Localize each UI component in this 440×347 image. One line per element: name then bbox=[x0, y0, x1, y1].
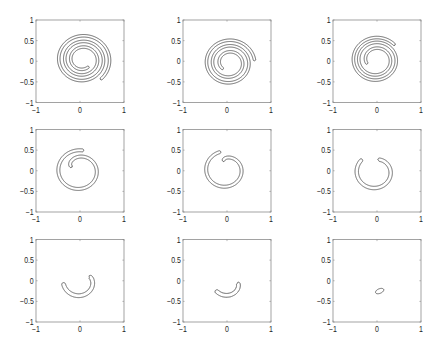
x-tick-label: −1 bbox=[32, 215, 40, 224]
y-tick-label: 0 bbox=[177, 276, 181, 285]
y-tick-label: 1 bbox=[177, 235, 181, 244]
y-tick-label: 0.5 bbox=[321, 256, 331, 265]
x-tick-label: 0 bbox=[375, 215, 379, 224]
x-tick-label: 0 bbox=[225, 215, 229, 224]
y-tick-label: 0.5 bbox=[171, 36, 181, 45]
x-tick-label: 1 bbox=[269, 106, 273, 115]
x-tick-label: 0 bbox=[78, 325, 82, 334]
figure: 10.50−0.5−1−10110.50−0.5−1−10110.50−0.5−… bbox=[0, 0, 440, 347]
y-tick-label: 1 bbox=[327, 125, 331, 134]
axes-box bbox=[183, 20, 271, 103]
y-tick-label: 0 bbox=[30, 276, 34, 285]
axes-box bbox=[333, 240, 421, 323]
y-tick-label: 1 bbox=[30, 235, 34, 244]
y-tick-label: 1 bbox=[177, 125, 181, 134]
x-tick-label: 1 bbox=[419, 325, 423, 334]
x-tick-label: −1 bbox=[179, 106, 187, 115]
subplot-1 bbox=[36, 20, 124, 103]
y-tick-label: −0.5 bbox=[317, 297, 331, 306]
axes-box bbox=[183, 130, 271, 213]
axes-box bbox=[183, 240, 271, 323]
y-tick-label: 0 bbox=[177, 166, 181, 175]
y-tick-label: 0 bbox=[327, 166, 331, 175]
y-tick-label: 0.5 bbox=[321, 146, 331, 155]
y-tick-label: 1 bbox=[327, 235, 331, 244]
y-tick-label: 0.5 bbox=[24, 36, 34, 45]
x-tick-label: −1 bbox=[32, 325, 40, 334]
subplot-4 bbox=[36, 130, 124, 213]
y-tick-label: 1 bbox=[177, 16, 181, 25]
y-tick-label: 0.5 bbox=[321, 36, 331, 45]
y-tick-label: 0 bbox=[327, 57, 331, 66]
subplot-5 bbox=[183, 130, 271, 213]
y-tick-label: −0.5 bbox=[167, 297, 181, 306]
plot-canvas bbox=[0, 0, 440, 347]
axes-box bbox=[333, 20, 421, 103]
x-tick-label: 1 bbox=[419, 215, 423, 224]
x-tick-label: −1 bbox=[179, 215, 187, 224]
y-tick-label: −0.5 bbox=[20, 77, 34, 86]
x-tick-label: −1 bbox=[329, 325, 337, 334]
y-tick-label: −0.5 bbox=[317, 77, 331, 86]
y-tick-label: −0.5 bbox=[167, 77, 181, 86]
y-tick-label: 0.5 bbox=[24, 256, 34, 265]
x-tick-label: 0 bbox=[78, 106, 82, 115]
y-tick-label: 0.5 bbox=[24, 146, 34, 155]
y-tick-label: 0 bbox=[177, 57, 181, 66]
y-tick-label: 0.5 bbox=[171, 256, 181, 265]
y-tick-label: −0.5 bbox=[317, 187, 331, 196]
x-tick-label: −1 bbox=[179, 325, 187, 334]
x-tick-label: 1 bbox=[419, 106, 423, 115]
subplot-6 bbox=[333, 130, 421, 213]
x-tick-label: 0 bbox=[375, 106, 379, 115]
subplot-2 bbox=[183, 20, 271, 103]
subplot-3 bbox=[333, 20, 421, 103]
y-tick-label: 1 bbox=[30, 125, 34, 134]
y-tick-label: 0 bbox=[30, 57, 34, 66]
x-tick-label: 1 bbox=[269, 325, 273, 334]
y-tick-label: 0 bbox=[327, 276, 331, 285]
x-tick-label: −1 bbox=[32, 106, 40, 115]
x-tick-label: 1 bbox=[269, 215, 273, 224]
x-tick-label: 0 bbox=[78, 215, 82, 224]
y-tick-label: −0.5 bbox=[20, 187, 34, 196]
axes-box bbox=[36, 130, 124, 213]
x-tick-label: 1 bbox=[122, 215, 126, 224]
x-tick-label: −1 bbox=[329, 215, 337, 224]
y-tick-label: 1 bbox=[327, 16, 331, 25]
y-tick-label: 1 bbox=[30, 16, 34, 25]
axes-box bbox=[333, 130, 421, 213]
x-tick-label: 0 bbox=[225, 106, 229, 115]
x-tick-label: −1 bbox=[329, 106, 337, 115]
y-tick-label: 0.5 bbox=[171, 146, 181, 155]
axes-box bbox=[36, 240, 124, 323]
subplot-9 bbox=[333, 240, 421, 323]
y-tick-label: 0 bbox=[30, 166, 34, 175]
y-tick-label: −0.5 bbox=[167, 187, 181, 196]
x-tick-label: 1 bbox=[122, 325, 126, 334]
x-tick-label: 0 bbox=[375, 325, 379, 334]
subplot-7 bbox=[36, 240, 124, 323]
x-tick-label: 1 bbox=[122, 106, 126, 115]
x-tick-label: 0 bbox=[225, 325, 229, 334]
y-tick-label: −0.5 bbox=[20, 297, 34, 306]
subplot-8 bbox=[183, 240, 271, 323]
